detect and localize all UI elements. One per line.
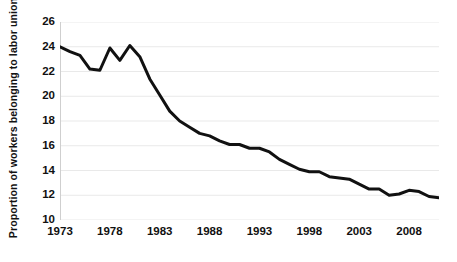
x-tick-label-1998: 1998 xyxy=(297,226,323,238)
x-axis-tick-labels: 19731978198319881993199820032008 xyxy=(60,224,439,246)
data-series-line xyxy=(60,46,439,198)
plot-area xyxy=(60,22,439,220)
y-tick-label-14: 14 xyxy=(42,165,55,177)
y-tick-label-20: 20 xyxy=(42,91,55,103)
y-tick-label-18: 18 xyxy=(42,115,55,127)
x-tick-label-1988: 1988 xyxy=(197,226,223,238)
union-membership-line-chart: Proportion of workers belonging to labor… xyxy=(0,0,457,262)
x-tick-label-1993: 1993 xyxy=(247,226,273,238)
y-axis-tick-labels: 101214161820222426 xyxy=(26,0,59,262)
y-tick-label-16: 16 xyxy=(42,140,55,152)
x-tick-label-2003: 2003 xyxy=(346,226,372,238)
x-tick-label-1973: 1973 xyxy=(47,226,73,238)
x-tick-label-1978: 1978 xyxy=(97,226,123,238)
y-axis-title: Proportion of workers belonging to labor… xyxy=(7,0,19,238)
y-tick-label-26: 26 xyxy=(42,16,55,28)
y-axis-title-wrapper: Proportion of workers belonging to labor… xyxy=(0,0,26,236)
axis-lines xyxy=(60,22,61,220)
x-tick-label-1983: 1983 xyxy=(147,226,173,238)
y-tick-label-24: 24 xyxy=(42,41,55,53)
y-tick-label-12: 12 xyxy=(42,190,55,202)
y-tick-label-22: 22 xyxy=(42,66,55,78)
x-tick-label-2008: 2008 xyxy=(396,226,422,238)
chart-svg xyxy=(60,22,439,220)
